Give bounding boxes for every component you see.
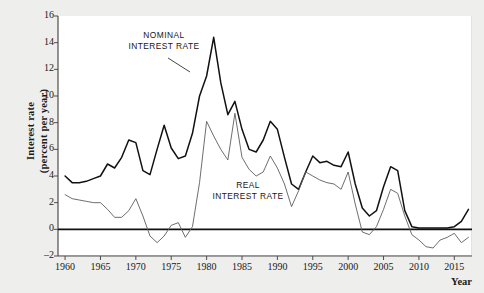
x-tick-label: 1995 — [293, 261, 333, 272]
x-tick-label: 1960 — [45, 261, 85, 272]
x-tick-label: 1980 — [187, 261, 227, 272]
x-tick-label: 1990 — [257, 261, 297, 272]
x-tick-label: 2015 — [434, 261, 474, 272]
x-tick-label: 2005 — [364, 261, 404, 272]
annotation-real-interest-rate: REAL INTEREST RATE — [196, 180, 300, 201]
x-tick-label: 1975 — [151, 261, 191, 272]
y-axis-title: Interest rate (percent per year) — [24, 31, 50, 231]
x-tick-label: 1965 — [80, 261, 120, 272]
x-tick-label: 2000 — [328, 261, 368, 272]
x-axis-tick-labels: 1960196519701975198019851990199520002005… — [0, 0, 484, 293]
x-tick-label: 2010 — [399, 261, 439, 272]
annotation-nominal-interest-rate: NOMINAL INTEREST RATE — [112, 30, 216, 51]
x-tick-label: 1970 — [116, 261, 156, 272]
annotation-nominal-line2: INTEREST RATE — [112, 41, 216, 52]
y-axis-title-line1: Interest rate — [24, 31, 37, 231]
x-axis-title: Year — [451, 276, 472, 287]
annotation-nominal-line1: NOMINAL — [112, 30, 216, 41]
annotation-real-line1: REAL — [196, 180, 300, 191]
y-axis-title-line2: (percent per year) — [37, 31, 50, 231]
figure-interest-rates: –20246810121416 196019651970197519801985… — [0, 0, 484, 293]
x-tick-label: 1985 — [222, 261, 262, 272]
annotation-real-line2: INTEREST RATE — [196, 191, 300, 202]
